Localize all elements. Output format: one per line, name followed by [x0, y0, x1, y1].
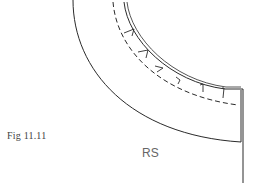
figure-caption: Fig 11.11	[7, 130, 46, 141]
seam-line-dashed	[113, 2, 238, 105]
facing-edge-outer	[124, 2, 243, 89]
outer-edge-arc	[73, 0, 241, 142]
right-side-label: RS	[142, 146, 159, 160]
diagram-canvas	[0, 0, 263, 183]
facing-edge-inner	[127, 2, 241, 87]
